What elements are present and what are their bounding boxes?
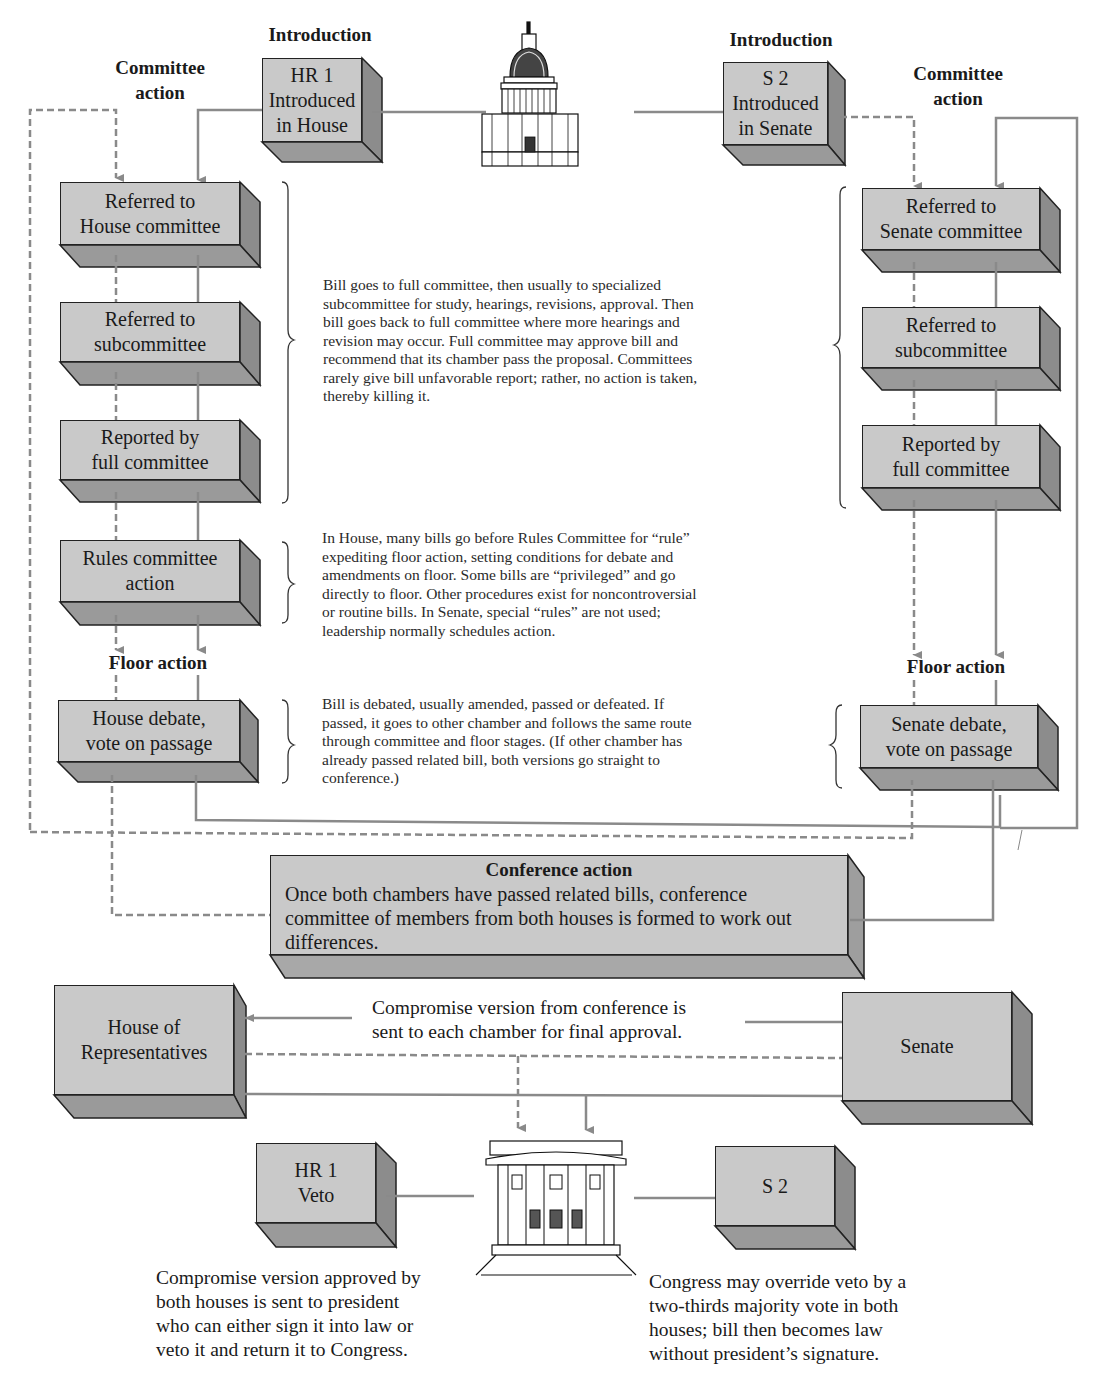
box-label: Referred to subcommittee: [895, 313, 1007, 363]
note-compromise-version: Compromise version from conference is se…: [372, 996, 772, 1044]
box-label: Senate: [900, 1034, 953, 1059]
stage-label-introduction-senate: Introduction: [711, 27, 851, 52]
box-label: House debate, vote on passage: [86, 706, 213, 756]
stage-label-committee-house: Committee action: [90, 55, 230, 105]
stage-label-introduction-house: Introduction: [250, 22, 390, 47]
box-label: Reported by full committee: [91, 425, 208, 475]
box-label: Rules committee action: [83, 546, 218, 596]
box-label: Senate debate, vote on passage: [886, 712, 1013, 762]
stage-label-floor-senate: Floor action: [886, 654, 1026, 679]
box-label: Referred to House committee: [80, 189, 221, 239]
stage-label-committee-senate: Committee action: [888, 61, 1028, 111]
conference-body: Once both chambers have passed related b…: [285, 882, 833, 954]
note-president-sign-or-veto: Compromise version approved by both hous…: [156, 1266, 496, 1362]
note-veto-override: Congress may override veto by a two-thir…: [649, 1270, 989, 1366]
box-label: S 2: [762, 1174, 788, 1199]
white-house-icon: [476, 1141, 636, 1275]
stage-label-floor-house: Floor action: [88, 650, 228, 675]
conference-title: Conference action: [285, 857, 833, 882]
box-label: House of Representatives: [81, 1015, 208, 1065]
box-label: S 2 Introduced in Senate: [732, 66, 819, 141]
capitol-building-icon: [482, 22, 578, 166]
box-label: HR 1 Veto: [295, 1158, 338, 1208]
box-label: Reported by full committee: [892, 432, 1009, 482]
box-label: HR 1 Introduced in House: [269, 63, 356, 138]
note-committee-stage: Bill goes to full committee, then usuall…: [323, 276, 823, 406]
note-floor-stage: Bill is debated, usually amended, passed…: [322, 695, 822, 788]
note-rules-stage: In House, many bills go before Rules Com…: [322, 529, 822, 640]
box-label: Referred to Senate committee: [880, 194, 1023, 244]
box-label: Referred to subcommittee: [94, 307, 206, 357]
